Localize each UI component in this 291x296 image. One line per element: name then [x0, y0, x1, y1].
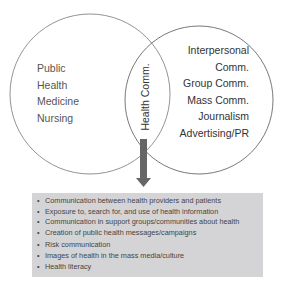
left-label: Medicine [37, 93, 79, 110]
intersection-label: Health Comm. [139, 63, 151, 130]
topic-item: Communication between health providers a… [37, 196, 263, 207]
topic-item: Risk communication [37, 240, 263, 251]
down-arrow-icon [136, 139, 151, 187]
topic-item: Communication in support groups/communit… [37, 217, 263, 228]
topic-item: Images of health in the mass media/cultu… [37, 251, 263, 262]
right-label: Journalism [139, 108, 249, 125]
topic-item: Health literacy [37, 262, 263, 273]
right-label: Mass Comm. [139, 92, 249, 109]
topic-item: Exposure to, search for, and use of heal… [37, 207, 263, 218]
left-circle-labels: Public Health Medicine Nursing [37, 60, 79, 126]
left-label: Nursing [37, 110, 79, 127]
right-label: Comm. [139, 59, 249, 76]
right-label: Interpersonal [139, 42, 249, 59]
left-label: Health [37, 77, 79, 94]
topics-box: Communication between health providers a… [32, 193, 263, 277]
right-label: Group Comm. [139, 75, 249, 92]
left-label: Public [37, 60, 79, 77]
topic-item: Creation of public health messages/campa… [37, 228, 263, 239]
right-circle-labels: Interpersonal Comm. Group Comm. Mass Com… [139, 42, 249, 141]
right-label: Advertising/PR [139, 125, 249, 142]
topics-list: Communication between health providers a… [32, 193, 263, 272]
